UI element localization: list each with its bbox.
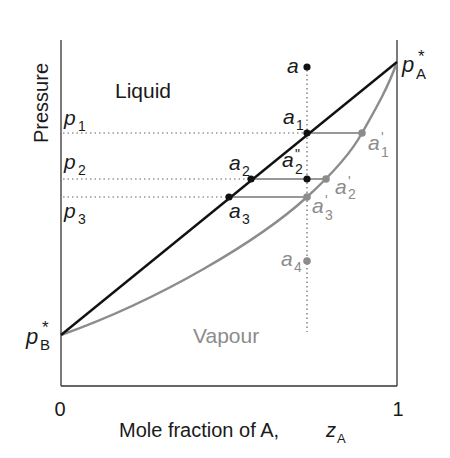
label-a3: a 3 bbox=[229, 199, 250, 227]
pA-star-label: p A * bbox=[401, 47, 426, 82]
svg-text:": " bbox=[295, 146, 300, 162]
svg-text:Mole fraction of A,: Mole fraction of A, bbox=[119, 419, 279, 441]
point-a bbox=[303, 63, 310, 70]
y-axis-label: Pressure bbox=[30, 63, 52, 143]
svg-text:A: A bbox=[416, 65, 426, 82]
phase-diagram: Pressure Liquid Vapour p 1 p 2 p 3 p A *… bbox=[0, 0, 450, 458]
label-a4: a 4 bbox=[281, 247, 302, 275]
svg-text:a: a bbox=[281, 247, 293, 270]
label-a1-prime: a ' 1 bbox=[368, 129, 389, 160]
svg-text:a: a bbox=[282, 148, 294, 171]
svg-text:2: 2 bbox=[78, 162, 86, 178]
svg-text:p: p bbox=[63, 150, 76, 173]
svg-text:p: p bbox=[401, 52, 414, 77]
svg-text:2: 2 bbox=[348, 186, 356, 202]
label-a: a bbox=[287, 54, 299, 77]
p3-label: p 3 bbox=[63, 199, 86, 227]
vapour-region-label: Vapour bbox=[193, 324, 259, 347]
point-a1-prime bbox=[358, 129, 366, 137]
svg-text:p: p bbox=[63, 106, 76, 129]
label-a2: a 2 bbox=[229, 151, 250, 179]
point-a2-double-prime bbox=[303, 175, 310, 182]
svg-text:a: a bbox=[229, 151, 241, 174]
point-a1 bbox=[303, 129, 310, 136]
liquid-region-label: Liquid bbox=[115, 79, 171, 102]
pB-star-label: p B * bbox=[25, 318, 50, 353]
p1-label: p 1 bbox=[63, 106, 86, 134]
svg-text:4: 4 bbox=[294, 259, 302, 275]
point-a3-prime bbox=[303, 193, 311, 201]
svg-text:a: a bbox=[335, 175, 347, 198]
svg-text:2: 2 bbox=[295, 161, 303, 177]
svg-text:2: 2 bbox=[242, 163, 250, 179]
x-tick-1: 1 bbox=[392, 398, 403, 420]
label-a3-prime: a ' 3 bbox=[312, 192, 333, 223]
svg-text:z: z bbox=[325, 419, 336, 441]
p2-label: p 2 bbox=[63, 150, 86, 178]
svg-text:a: a bbox=[283, 105, 295, 128]
svg-text:': ' bbox=[381, 129, 384, 145]
x-axis-label: Mole fraction of A, z A bbox=[119, 419, 346, 446]
svg-text:a: a bbox=[229, 199, 241, 222]
point-a4 bbox=[303, 257, 311, 265]
svg-text:p: p bbox=[25, 324, 38, 349]
svg-text:1: 1 bbox=[381, 144, 389, 160]
svg-text:1: 1 bbox=[296, 117, 304, 133]
svg-text:1: 1 bbox=[78, 118, 86, 134]
svg-text:*: * bbox=[42, 318, 49, 337]
label-a2-double-prime: a " 2 bbox=[282, 146, 303, 177]
svg-text:A: A bbox=[337, 431, 346, 446]
svg-text:a: a bbox=[312, 194, 324, 217]
label-a1: a 1 bbox=[283, 105, 304, 133]
svg-text:3: 3 bbox=[325, 207, 333, 223]
x-tick-0: 0 bbox=[54, 398, 65, 420]
svg-text:p: p bbox=[63, 199, 76, 222]
svg-text:3: 3 bbox=[78, 211, 86, 227]
svg-text:B: B bbox=[40, 336, 50, 353]
svg-text:a: a bbox=[368, 131, 380, 154]
svg-text:': ' bbox=[325, 192, 328, 208]
svg-text:3: 3 bbox=[242, 211, 250, 227]
label-a2-prime: a ' 2 bbox=[335, 173, 356, 202]
svg-text:*: * bbox=[418, 47, 425, 66]
point-a2-prime bbox=[322, 175, 330, 183]
